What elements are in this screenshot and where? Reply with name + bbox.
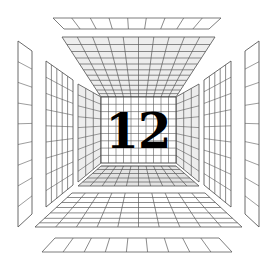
right-panel-middle	[204, 61, 231, 207]
detached-top-strip	[53, 18, 221, 29]
left-panel-outer	[18, 41, 32, 227]
perspective-room-illustration: 12	[0, 0, 274, 267]
back-wall-grid: 12	[101, 97, 176, 163]
floor-front-section	[35, 193, 242, 227]
right-panel-outer	[245, 41, 259, 227]
back-wall-numeral: 12	[106, 103, 171, 159]
left-panel-middle	[46, 61, 73, 207]
detached-bottom-strip	[42, 238, 232, 252]
